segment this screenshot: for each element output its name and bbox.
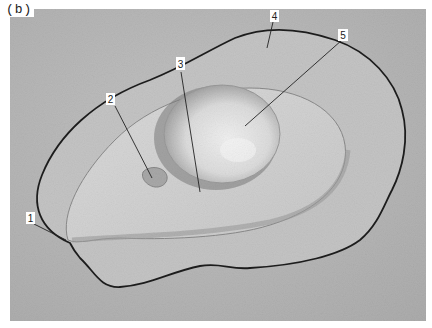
callout-label-3: 3 [178,59,184,70]
callout-label-4: 4 [272,11,278,22]
yolk-highlight [220,138,256,162]
callout-5: 5 [338,29,348,41]
egg-photograph: 1 2 3 4 5 [10,9,426,321]
callout-label-2: 2 [108,94,114,105]
callout-4: 4 [270,10,279,22]
callout-label-1: 1 [28,213,34,224]
callout-2: 2 [106,93,115,105]
egg-figure: 1 2 3 4 5 (b) [0,0,432,328]
yolk [164,85,280,183]
panel-label: (b) [4,3,34,17]
callout-1: 1 [26,212,35,224]
callout-label-5: 5 [340,30,346,41]
callout-3: 3 [176,57,185,70]
